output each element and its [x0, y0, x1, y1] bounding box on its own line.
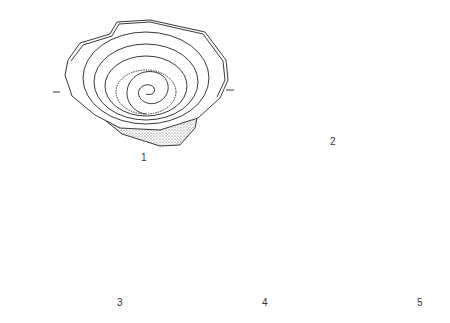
figure: 1 2 3 4 5: [0, 0, 450, 323]
panel-1-label: 1: [141, 152, 147, 163]
panel-2-label: 2: [330, 136, 336, 147]
panel-5-label: 5: [417, 297, 423, 308]
figure-drawing: [0, 0, 450, 323]
panel-4-label: 4: [262, 297, 268, 308]
panel-3-label: 3: [117, 297, 123, 308]
panel-1-bowl: [53, 20, 234, 146]
